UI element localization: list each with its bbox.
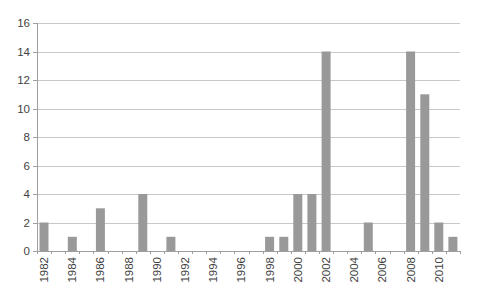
- bar-1989: [138, 194, 147, 251]
- x-tick-label: 2004: [348, 256, 360, 282]
- bar-2008: [406, 52, 415, 252]
- bar-chart-canvas: 0246810121416198219841986198819901992199…: [0, 0, 480, 294]
- bar-1991: [166, 237, 175, 251]
- x-tick-label: 1994: [207, 256, 219, 282]
- bar-2010: [434, 223, 443, 252]
- bar-2001: [307, 194, 316, 251]
- bar-1999: [279, 237, 288, 251]
- y-tick-label: 12: [17, 74, 30, 86]
- x-tick-label: 2002: [320, 257, 332, 283]
- x-tick-label: 2008: [405, 257, 417, 283]
- x-tick-label: 1992: [179, 257, 191, 283]
- bar-2009: [420, 94, 429, 251]
- bar-2000: [293, 194, 302, 251]
- x-tick-label: 1996: [235, 257, 247, 283]
- y-tick-label: 10: [17, 103, 30, 115]
- y-tick-label: 8: [24, 131, 30, 143]
- bar-2011: [448, 237, 457, 251]
- bar-1986: [96, 208, 105, 251]
- x-tick-label: 2006: [376, 257, 388, 283]
- y-tick-label: 14: [17, 46, 30, 58]
- y-tick-label: 16: [17, 17, 30, 29]
- y-tick-label: 6: [24, 160, 30, 172]
- bar-1984: [68, 237, 77, 251]
- x-tick-label: 1988: [123, 257, 135, 283]
- bar-1982: [40, 223, 49, 252]
- y-tick-label: 4: [24, 188, 31, 200]
- bar-2002: [322, 52, 331, 252]
- bar-1998: [265, 237, 274, 251]
- y-tick-label: 0: [24, 245, 30, 257]
- x-tick-label: 2000: [292, 257, 304, 283]
- x-tick-label: 1984: [66, 256, 78, 282]
- y-tick-label: 2: [24, 217, 30, 229]
- x-tick-label: 1990: [151, 257, 163, 283]
- x-tick-label: 1986: [94, 257, 106, 283]
- x-tick-label: 2010: [433, 257, 445, 283]
- bar-chart: 0246810121416198219841986198819901992199…: [0, 0, 480, 294]
- bar-2005: [364, 223, 373, 252]
- x-tick-label: 1982: [38, 257, 50, 283]
- x-tick-label: 1998: [264, 257, 276, 283]
